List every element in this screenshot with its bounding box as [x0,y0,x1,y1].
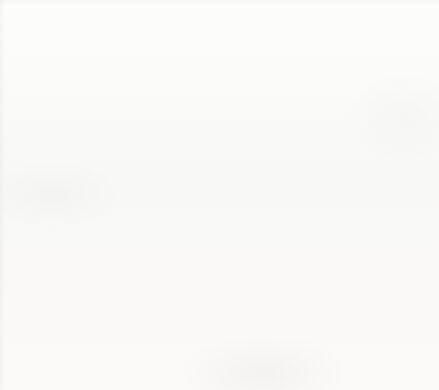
node-helper-value: Evolution [263,348,424,363]
node-object-heading: Object: [149,124,311,142]
node-sender-heading: Sender: [31,22,192,40]
node-opponent-heading: Opponent: [31,326,193,344]
arrow-opponent-to-subject [78,268,131,315]
node-helper-role: Helper [263,333,297,348]
diagram-canvas: Sender: The survival instinct Receiver: … [0,0,439,390]
node-subject: Subject: ONE [134,218,312,277]
node-receiver: Receiver: ONE to humanity [248,12,425,78]
node-receiver-role: Receiver [263,25,308,40]
node-receiver-heading: Receiver: [263,22,424,40]
node-helper-heading: Helper: [263,330,424,348]
node-helper: Helper: Evolution [248,320,425,382]
node-opponent: Opponent: The restrictions of the presen… [16,316,194,380]
node-object-colon: : [182,128,185,140]
node-sender-colon: : [68,26,71,38]
node-helper-colon: : [297,334,300,346]
node-receiver-colon: : [308,26,311,38]
node-subject-heading: Subject: [149,228,311,246]
node-opponent-role: Opponent [31,329,82,344]
node-sender-value: The survival instinct [31,40,192,55]
node-subject-value: ONE [149,246,311,261]
node-subject-colon: : [187,232,190,244]
node-object: Object: To strive for more [134,114,312,177]
node-sender: Sender: The survival instinct [16,12,193,78]
node-subject-role: Subject [149,231,187,246]
arrow-object-to-receiver [312,80,366,129]
node-object-value: To strive for more [149,142,311,157]
arrow-helper-to-subject [315,270,366,319]
node-opponent-colon: : [82,330,85,342]
node-object-role: Object [149,127,182,142]
node-receiver-value: ONE to humanity [263,40,424,55]
node-sender-role: Sender [31,25,68,40]
node-opponent-value: The restrictions of the present form [31,344,193,374]
arrow-sender-to-object [68,79,130,129]
